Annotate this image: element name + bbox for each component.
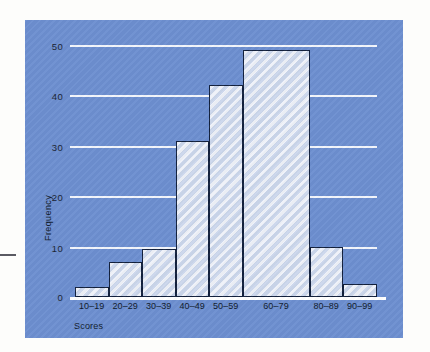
plot-area: 50 40 30 20 10 0 10–19 20–29 30–39 [70,45,377,297]
bar-10-19 [75,287,109,297]
x-tick-label-3: 40–49 [179,301,205,311]
bar-20-29 [109,262,143,297]
bar-30-39 [142,249,176,297]
x-tick-label-0: 10–19 [79,301,105,311]
bar-90-99 [343,284,377,297]
bar-60-79 [243,50,310,297]
y-tick-label-30: 30 [52,141,70,152]
y-axis-title: Frequency [43,195,53,241]
x-tick-label-7: 90–99 [347,301,373,311]
x-tick-label-6: 80–89 [313,301,339,311]
x-tick-label-5: 60–79 [263,301,289,311]
x-tick-label-4: 50–59 [213,301,239,311]
x-tick-label-1: 20–29 [112,301,138,311]
chart-panel: 50 40 30 20 10 0 10–19 20–29 30–39 [25,20,403,338]
bar-80-89 [310,247,344,297]
x-tick-label-2: 30–39 [146,301,172,311]
y-tick-label-20: 20 [52,192,70,203]
x-axis-title: Scores [74,321,103,331]
page-edge-tick-mark [0,254,16,256]
x-axis-line [70,297,386,300]
y-tick-label-0: 0 [57,292,70,303]
figure-canvas: 50 40 30 20 10 0 10–19 20–29 30–39 [0,0,430,352]
y-tick-label-50: 50 [52,41,70,52]
gridline-50 [70,45,377,47]
bar-40-49 [176,141,210,297]
bar-50-59 [209,85,243,297]
y-tick-label-40: 40 [52,91,70,102]
y-tick-label-10: 10 [52,242,70,253]
